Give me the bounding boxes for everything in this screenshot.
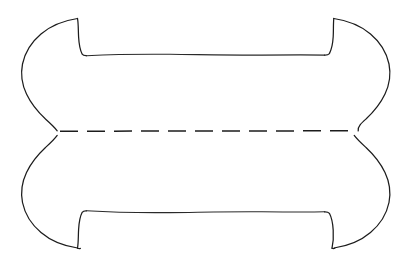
hand-drawn-figure — [0, 0, 416, 271]
upper-left-notch-curve — [78, 19, 87, 56]
lower-lobe — [22, 135, 390, 248]
lower-right-notch-curve — [325, 212, 334, 248]
lower-left-notch-curve — [78, 211, 87, 248]
upper-right-notch-curve — [325, 19, 334, 56]
upper-inner-edge — [87, 54, 325, 55]
upper-right-outer-curve — [334, 19, 390, 131]
lower-left-tip-join — [78, 248, 81, 249]
drawing-canvas — [0, 0, 416, 271]
lower-left-outer-curve — [22, 135, 78, 248]
upper-lobe — [22, 19, 390, 131]
lower-inner-edge — [87, 211, 325, 213]
upper-left-outer-curve — [22, 19, 78, 131]
lower-right-outer-curve — [334, 135, 390, 248]
